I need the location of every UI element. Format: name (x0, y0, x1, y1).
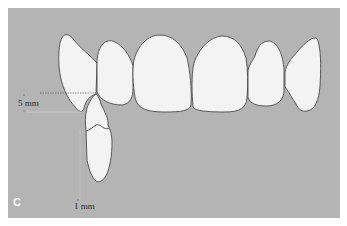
measurement-label-5mm: 5 mm (18, 98, 39, 108)
tooth-upper-left-canine (285, 38, 321, 111)
tooth-upper-right-central (133, 35, 191, 112)
measurement-label-1mm: 1 mm (74, 201, 95, 211)
panel-label: C (13, 196, 21, 208)
tooth-lower (85, 94, 112, 182)
tooth-upper-left-central (192, 36, 248, 112)
tooth-upper-right-lateral (97, 41, 133, 105)
tooth-upper-left-lateral (248, 41, 284, 106)
teeth-diagram (0, 0, 347, 226)
